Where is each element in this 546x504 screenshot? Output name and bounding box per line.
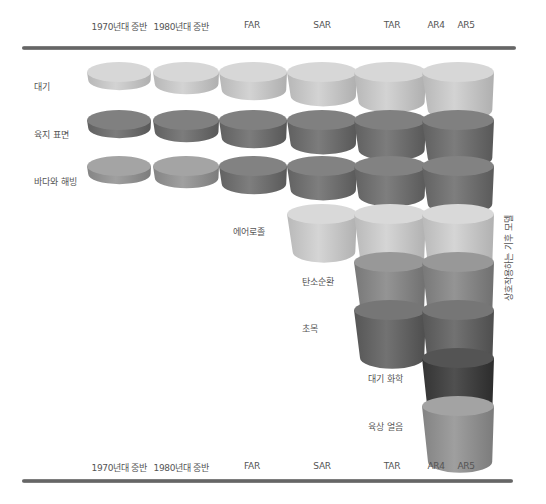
column-label-far-bottom: FAR: [244, 461, 260, 471]
column-label-1980s: 1980년대 중반: [153, 20, 208, 33]
column-label-ar5: AR5: [457, 20, 474, 30]
cylinder-2-1: [85, 108, 157, 140]
column-label-1970s: 1970년대 중반: [91, 20, 146, 33]
top-separator-bar: [22, 46, 516, 50]
row-label-land-ice: 육상 얼음: [368, 420, 403, 433]
column-label-1980s-bottom: 1980년대 중반: [153, 461, 208, 474]
row-label-atmospheric-chemistry: 대기 화학: [368, 372, 403, 385]
bottom-separator-bar: [22, 479, 513, 483]
row-label-vegetation: 초목: [302, 322, 318, 335]
cylinder-1-3: [217, 60, 293, 102]
row-label-aerosol: 에어로졸: [233, 225, 265, 238]
column-label-far: FAR: [244, 20, 260, 30]
column-label-tar: TAR: [384, 20, 400, 30]
column-label-ar4-bottom: AR4: [427, 461, 444, 471]
column-label-ar5-bottom: AR5: [457, 461, 474, 471]
column-label-1970s-bottom: 1970년대 중반: [91, 461, 146, 474]
column-label-sar: SAR: [313, 20, 330, 30]
column-label-ar4: AR4: [427, 20, 444, 30]
cylinder-1-1: [85, 60, 157, 92]
row-label-ocean-sea-ice: 바다와 해빙: [34, 175, 77, 188]
cylinder-3-1: [85, 154, 157, 186]
column-label-sar-bottom: SAR: [313, 461, 330, 471]
row-label-carbon-cycle: 탄소순환: [302, 275, 334, 288]
cylinder-3-3: [217, 154, 293, 196]
side-label-interactive-climate-models: 상호작용하는 기후 모델: [502, 215, 515, 301]
row-label-atmosphere: 대기: [34, 80, 50, 93]
cylinder-3-2: [151, 154, 225, 190]
column-label-tar-bottom: TAR: [384, 461, 400, 471]
cylinder-1-2: [151, 60, 225, 96]
cylinder-2-3: [217, 108, 293, 150]
row-label-land-surface: 육지 표면: [34, 128, 69, 141]
cylinder-2-2: [151, 108, 225, 144]
